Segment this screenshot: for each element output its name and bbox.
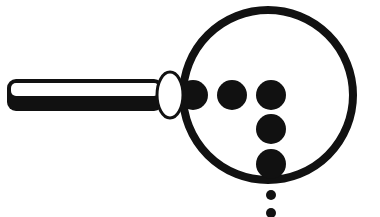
dot-3 xyxy=(256,80,286,110)
handle xyxy=(7,79,163,111)
dot-5 xyxy=(256,149,286,179)
magnifying-glass-icon xyxy=(0,0,380,217)
dot-6 xyxy=(266,190,276,200)
handle-highlight xyxy=(11,83,159,96)
dot-4 xyxy=(256,114,286,144)
handle-collar xyxy=(157,72,183,118)
illustration-canvas xyxy=(0,0,380,217)
dot-7 xyxy=(266,208,276,217)
dots-group xyxy=(178,80,286,217)
dot-2 xyxy=(217,80,247,110)
